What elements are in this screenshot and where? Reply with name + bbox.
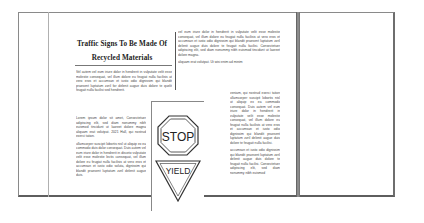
paragraph: Vel autem vel eum iriure dolor in hendre… xyxy=(76,70,172,93)
yield-sign-icon: YIELD xyxy=(156,161,200,201)
paragraph: Lorem ipsum dolor sit amet, Consectetuer… xyxy=(76,116,146,139)
title-line-2: Recycled Materials xyxy=(72,51,172,65)
traffic-sign-image[interactable]: STOP YIELD xyxy=(151,101,204,211)
right-lower-column-text: veniam, qui nostrud exerci tation ullamc… xyxy=(230,91,280,209)
page-divider[interactable] xyxy=(296,12,300,197)
paragraph: accumsan et iusto odio dignissim qui bla… xyxy=(230,148,280,175)
title-line-1: Traffic Signs To Be Made Of xyxy=(72,37,172,51)
page-margin-guide xyxy=(48,12,49,197)
paragraph: vel eum iriure dolor in hendrerit in vul… xyxy=(178,30,280,57)
paragraph: ullamcorper suscipit lobortis nisl ut al… xyxy=(76,142,146,178)
right-column-text: vel eum iriure dolor in hendrerit in vul… xyxy=(178,30,280,92)
column-rule xyxy=(175,32,176,90)
traffic-signs-graphic: STOP YIELD xyxy=(152,102,204,210)
stop-sign-icon: STOP xyxy=(158,116,198,155)
article-title: Traffic Signs To Be Made Of Recycled Mat… xyxy=(72,37,172,65)
paragraph: veniam, qui nostrud exerci tation ullamc… xyxy=(230,91,280,145)
svg-text:STOP: STOP xyxy=(162,130,194,144)
paragraph: aliquam erat volutpat. Ut wisi enim ad m… xyxy=(178,60,280,65)
title-underline xyxy=(75,65,172,66)
left-narrow-column-text: Lorem ipsum dolor sit amet, Consectetuer… xyxy=(76,116,146,208)
svg-text:YIELD: YIELD xyxy=(166,166,191,176)
